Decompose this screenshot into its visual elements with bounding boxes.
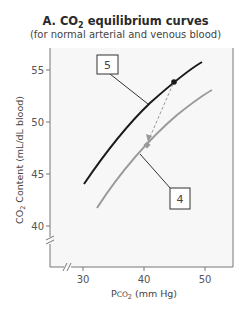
callout-4-label: 4 [177, 193, 184, 206]
y-tick-50: 50 [31, 117, 44, 128]
y-tick-45: 45 [31, 169, 44, 180]
chart-plot: 55 50 45 40 30 40 50 PCO2 (mm Hg) CO2 Co… [0, 0, 251, 318]
y-axis-label: CO2 Content (mL/dL blood) [14, 96, 27, 224]
x-tick-40: 40 [138, 274, 151, 285]
y-tick-40: 40 [31, 221, 44, 232]
marker-arterial [171, 79, 177, 85]
x-tick-30: 30 [77, 274, 90, 285]
callout-5-label: 5 [104, 59, 111, 72]
plot-area [50, 48, 233, 267]
y-tick-55: 55 [31, 65, 44, 76]
x-tick-50: 50 [199, 274, 212, 285]
x-axis-label: PCO2 (mm Hg) [111, 288, 177, 301]
